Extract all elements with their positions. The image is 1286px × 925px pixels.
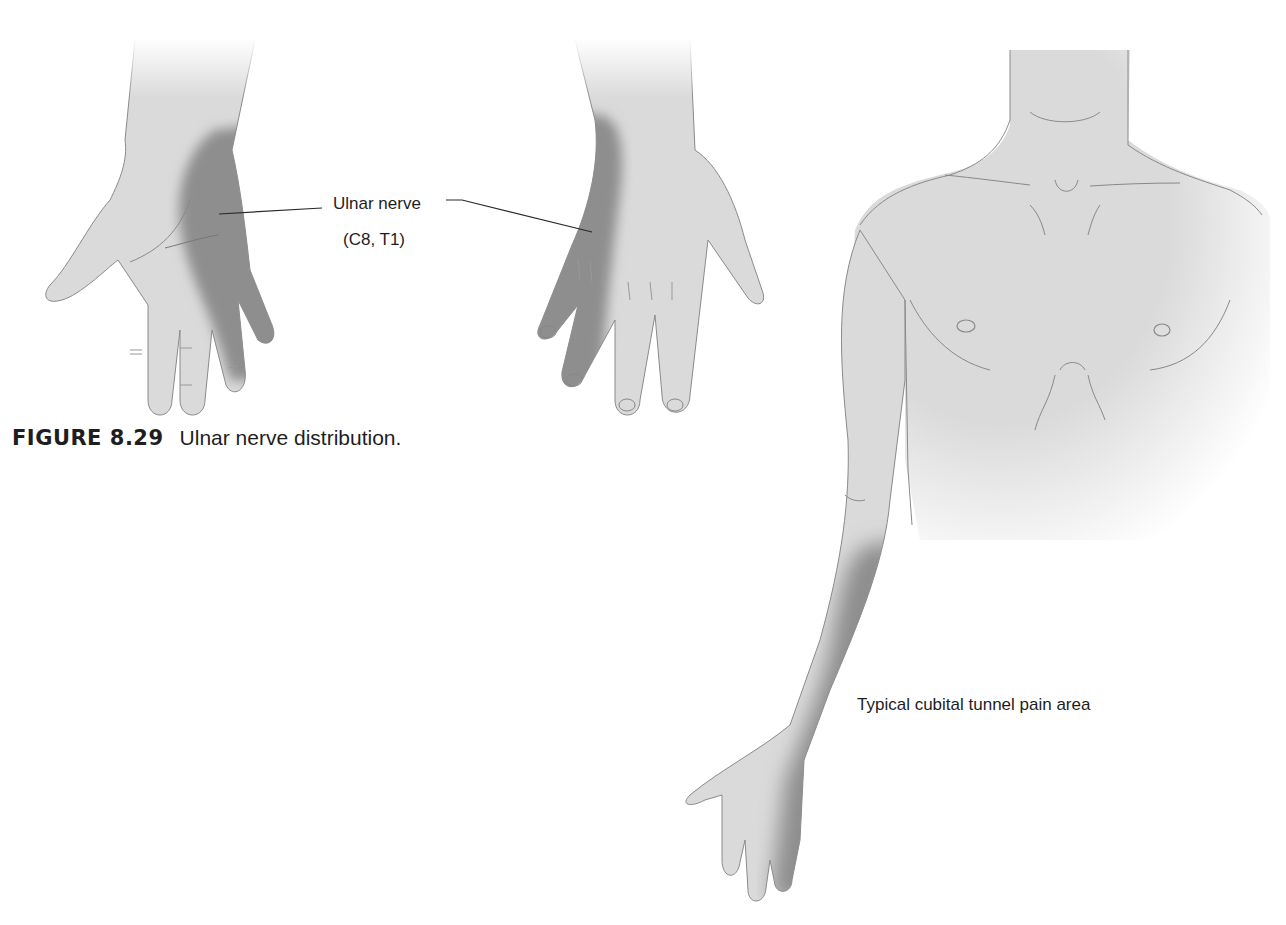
dorsal-hand-illustration xyxy=(520,38,764,415)
ulnar-nerve-label: Ulnar nerve xyxy=(333,193,421,215)
palmar-hand-illustration xyxy=(46,38,300,415)
torso-arm-illustration xyxy=(686,50,1270,901)
figure-number: FIGURE 8.29 xyxy=(12,426,164,450)
figure-caption: FIGURE 8.29Ulnar nerve distribution. xyxy=(12,426,401,450)
figure-caption-text: Ulnar nerve distribution. xyxy=(180,426,402,449)
nerve-roots-label: (C8, T1) xyxy=(343,229,405,251)
pain-area-label: Typical cubital tunnel pain area xyxy=(857,694,1090,716)
nerve-leader-right xyxy=(446,200,592,232)
illustration-canvas xyxy=(0,0,1286,925)
